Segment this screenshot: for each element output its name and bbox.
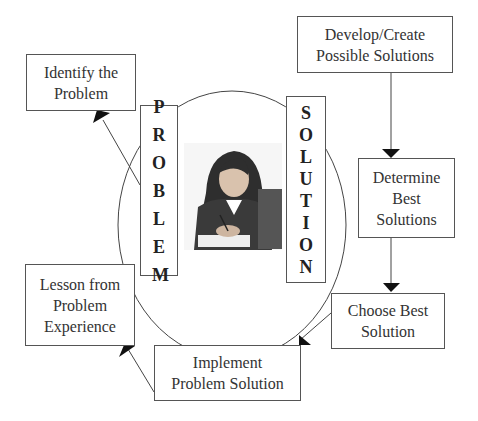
arrowhead-icon	[299, 335, 311, 345]
problem-label-box: PROBLEM	[140, 105, 178, 276]
arrow-choose-to-implement	[300, 313, 331, 340]
arrowhead-icon	[382, 149, 400, 158]
arrowhead-icon	[119, 345, 135, 357]
arrowhead-icon	[93, 110, 110, 123]
step-implement-solution: Implement Problem Solution	[154, 345, 301, 401]
step-identify-problem: Identify the Problem	[26, 54, 136, 111]
arrowhead-icon	[383, 283, 400, 292]
step-develop-solutions: Develop/Create Possible Solutions	[297, 16, 453, 73]
arrow-problem-to-identify	[103, 120, 140, 185]
step-determine-best: Determine Best Solutions	[358, 158, 455, 238]
solution-letters: SOLUTION	[299, 102, 313, 278]
woman-writing-photo	[184, 143, 282, 250]
problem-letters: PROBLEM	[152, 93, 166, 289]
step-lesson-experience: Lesson from Problem Experience	[25, 264, 135, 346]
step-choose-best: Choose Best Solution	[331, 293, 445, 349]
solution-label-box: SOLUTION	[286, 96, 326, 283]
arrow-implement-to-lesson	[128, 349, 154, 392]
